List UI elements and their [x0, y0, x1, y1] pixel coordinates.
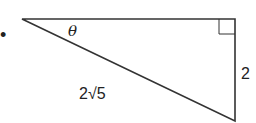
hypotenuse-label: 2√5	[79, 86, 106, 102]
right-angle-marker	[219, 19, 235, 34]
triangle-figure	[0, 0, 256, 123]
angle-theta-label: θ	[68, 24, 77, 39]
bullet-marker: •	[0, 26, 6, 44]
vertical-side-label: 2	[241, 66, 250, 82]
right-triangle	[22, 19, 235, 121]
